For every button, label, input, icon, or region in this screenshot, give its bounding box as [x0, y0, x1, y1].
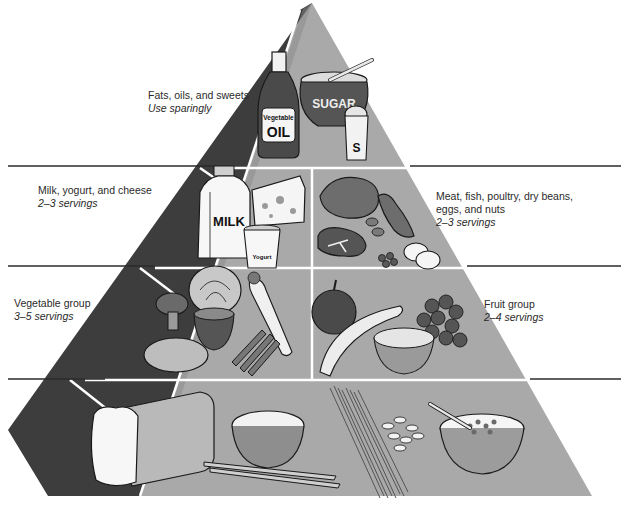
- yogurt-label: Yogurt: [253, 254, 272, 260]
- label-fats-subtitle: Use sparingly: [148, 102, 249, 115]
- oil-label-large: OIL: [267, 124, 291, 140]
- salt-label: S: [352, 141, 360, 155]
- label-fruits: Fruit group 2–4 servings: [484, 298, 544, 324]
- label-protein-subtitle: 2–3 servings: [436, 216, 573, 229]
- label-protein-title-2: eggs, and nuts: [436, 203, 573, 216]
- label-fats: Fats, oils, and sweets Use sparingly: [148, 89, 249, 115]
- label-protein: Meat, fish, poultry, dry beans, eggs, an…: [436, 190, 573, 229]
- label-dairy: Milk, yogurt, and cheese 2–3 servings: [38, 184, 152, 210]
- cabbage: [189, 266, 241, 314]
- label-fruits-subtitle: 2–4 servings: [484, 311, 544, 324]
- label-fats-title: Fats, oils, and sweets: [148, 89, 249, 102]
- yogurt-cup: Yogurt: [244, 225, 280, 268]
- milk-label: MILK: [213, 214, 245, 229]
- potato: [144, 338, 208, 372]
- label-vegetables-title: Vegetable group: [14, 297, 90, 310]
- oil-label-small: Vegetable: [263, 114, 294, 122]
- label-vegetables-subtitle: 3–5 servings: [14, 310, 90, 323]
- salt-shaker: S: [345, 106, 368, 160]
- food-pyramid-diagram: Vegetable OIL SUGAR S MILK: [0, 0, 629, 507]
- pyramid-graphic: Vegetable OIL SUGAR S MILK: [0, 0, 629, 507]
- label-protein-title-1: Meat, fish, poultry, dry beans,: [436, 190, 573, 203]
- label-vegetables: Vegetable group 3–5 servings: [14, 297, 90, 323]
- label-fruits-title: Fruit group: [484, 298, 544, 311]
- label-dairy-title: Milk, yogurt, and cheese: [38, 184, 152, 197]
- label-dairy-subtitle: 2–3 servings: [38, 197, 152, 210]
